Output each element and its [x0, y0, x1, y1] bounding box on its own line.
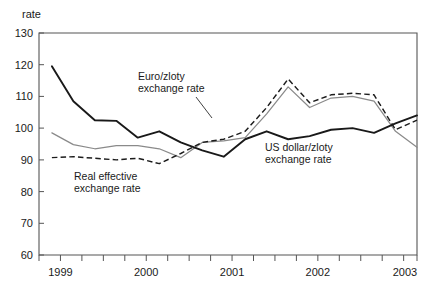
- usd-zloty-annotation-line1: US dollar/zloty: [265, 141, 333, 153]
- y-tick-label: 130: [15, 27, 33, 39]
- x-tick-label-1999: 1999: [48, 266, 72, 278]
- y-tick-label: 110: [15, 90, 33, 102]
- usd-zloty-annotation: US dollar/zloty exchange rate: [265, 141, 333, 165]
- y-tick-label: 100: [15, 122, 33, 134]
- plot-frame: [39, 33, 417, 255]
- exchange-rate-chart: rate 130 120 110 100 90 80 70 60: [0, 0, 435, 288]
- y-axis-title: rate: [22, 8, 41, 20]
- real-effective-annotation-line1: Real effective: [74, 170, 138, 182]
- y-tick-label: 90: [21, 154, 33, 166]
- y-axis-ticks: 130 120 110 100 90 80 70 60: [15, 27, 44, 261]
- chart-canvas: rate 130 120 110 100 90 80 70 60: [0, 0, 435, 288]
- usd-zloty-annotation-line2: exchange rate: [265, 153, 332, 165]
- x-tick-label-2003: 2003: [393, 266, 417, 278]
- y-tick-label: 60: [21, 249, 33, 261]
- real-effective-annotation: Real effective exchange rate: [74, 170, 141, 194]
- x-tick-label-2002: 2002: [306, 266, 330, 278]
- real-effective-annotation-line2: exchange rate: [74, 182, 141, 194]
- euro-zloty-annotation-line1: Euro/zloty: [138, 70, 185, 82]
- y-tick-label: 70: [21, 217, 33, 229]
- x-tick-label-2001: 2001: [220, 266, 244, 278]
- x-tick-label-2000: 2000: [134, 266, 158, 278]
- y-tick-label: 120: [15, 59, 33, 71]
- x-axis-ticks: [39, 255, 417, 261]
- series-line-us-dollar-zloty: [52, 66, 417, 156]
- x-axis-labels: 1999 2000 2001 2002 2003: [48, 266, 417, 278]
- series-group: [52, 66, 417, 163]
- euro-zloty-annotation: Euro/zloty exchange rate: [138, 70, 212, 118]
- euro-zloty-annotation-line2: exchange rate: [138, 82, 205, 94]
- y-tick-label: 80: [21, 186, 33, 198]
